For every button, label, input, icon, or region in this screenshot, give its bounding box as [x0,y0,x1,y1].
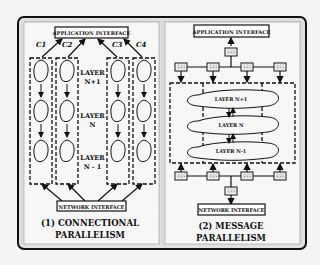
connection-label-c3: C3 [112,40,123,49]
packet-icon [241,172,253,180]
svg-text:N: N [90,121,96,129]
svg-text:NETWORK INTERFACE: NETWORK INTERFACE [59,204,125,210]
packet-icon [207,63,219,71]
layer-label-n-plus-1: LAYER N+1 [215,96,248,102]
caption-message: (2) MESSAGE [198,221,264,231]
svg-text:LAYER: LAYER [80,112,105,120]
layer-label-n: LAYER N [219,122,244,128]
network-interface-box: NETWORK INTERFACE [57,201,126,211]
connection-label-c1: C1 [36,40,46,49]
packet-icon [225,187,237,195]
svg-text:APPLICATION INTERFACE: APPLICATION INTERFACE [52,30,131,36]
packet-icon [175,172,187,180]
packet-icon [225,48,237,56]
svg-text:LAYER: LAYER [80,69,105,77]
svg-text:NETWORK INTERFACE: NETWORK INTERFACE [199,207,265,213]
packet-icon [274,172,286,180]
packet-icon [274,63,286,71]
svg-text:APPLICATION INTERFACE: APPLICATION INTERFACE [192,29,271,35]
application-interface-box: APPLICATION INTERFACE [52,27,131,38]
connection-label-c2: C2 [62,40,73,49]
panel-connectional-parallelism: APPLICATION INTERFACE C1 C2 C3 C4 [24,22,159,244]
caption-parallelism-2: PARALLELISM [196,233,267,243]
layer-label-n-minus-1: LAYER N-1 [216,148,247,154]
svg-text:LAYER: LAYER [80,154,105,162]
packet-icon [207,172,219,180]
network-interface-box: NETWORK INTERFACE [198,204,265,215]
caption-parallelism-1: PARALLELISM [55,230,126,240]
svg-text:N - 1: N - 1 [84,163,102,171]
parallelism-diagram: APPLICATION INTERFACE C1 C2 C3 C4 [0,0,320,265]
connection-label-c4: C4 [136,40,147,49]
packet-icon [241,63,253,71]
panel-message-parallelism: APPLICATION INTERFACE [165,22,300,244]
packet-icon [175,63,187,71]
svg-text:N+1: N+1 [85,78,101,86]
caption-connectional: (1) CONNECTIONAL [41,218,139,228]
application-interface-box: APPLICATION INTERFACE [192,25,271,37]
